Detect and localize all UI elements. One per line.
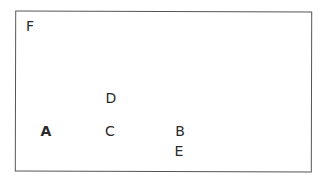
label-d: D	[106, 91, 117, 105]
label-e: E	[175, 144, 184, 158]
label-c: C	[105, 124, 115, 138]
label-b: B	[175, 124, 185, 138]
label-a: A	[41, 124, 52, 138]
diagram-frame	[15, 11, 312, 173]
label-f: F	[26, 19, 34, 33]
